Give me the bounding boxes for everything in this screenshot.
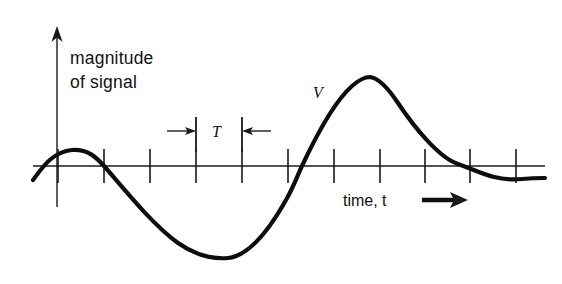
signal-curve xyxy=(33,77,545,258)
x-axis-label: time, t xyxy=(343,192,387,209)
signal-waveform-figure: magnitude of signal V T time, t xyxy=(0,0,562,284)
y-axis xyxy=(51,26,62,207)
y-axis-label-line2: of signal xyxy=(70,72,137,92)
curve-label-v: V xyxy=(313,84,325,101)
period-label-t: T xyxy=(212,123,222,140)
signal-waveform xyxy=(33,77,545,258)
y-axis-label-line1: magnitude xyxy=(70,48,154,68)
x-axis-label-arrow xyxy=(422,192,468,208)
